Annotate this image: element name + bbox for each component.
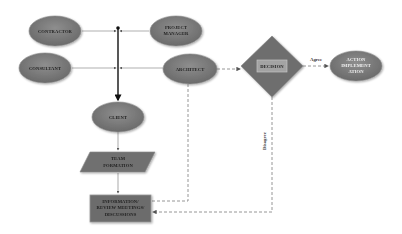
architect-label: ARCHITECT bbox=[176, 67, 205, 72]
team-formation-label-line2: FORMATION bbox=[103, 163, 133, 168]
information-review-label-line3: DISCUSSIONS bbox=[105, 212, 137, 217]
agree-label: Agree bbox=[310, 57, 322, 62]
node-team-formation[interactable]: TEAM FORMATION bbox=[80, 152, 155, 172]
node-information-review[interactable]: INFORMATION/ REVIEW MEETINGS/ DISCUSSION… bbox=[90, 195, 151, 222]
disagree-label: Disagree bbox=[262, 132, 267, 150]
node-decision[interactable]: DECISION bbox=[241, 36, 303, 97]
contractor-label: CONTRACTOR bbox=[38, 29, 73, 34]
action-implementation-label-line3: ATION bbox=[348, 69, 364, 74]
node-architect[interactable]: ARCHITECT bbox=[163, 54, 217, 84]
disagree-connector bbox=[153, 97, 272, 212]
project-manager-label-line1: PROJECT bbox=[165, 25, 187, 30]
dashed-connectors bbox=[152, 66, 328, 212]
node-consultant[interactable]: CONSULTANT bbox=[19, 53, 71, 83]
node-contractor[interactable]: CONTRACTOR bbox=[29, 16, 81, 46]
stakeholder-bus bbox=[116, 26, 120, 100]
action-implementation-label-line2: IMPLEMENT bbox=[341, 63, 371, 68]
information-review-label-line1: INFORMATION/ bbox=[102, 199, 139, 204]
information-review-label-line2: REVIEW MEETINGS/ bbox=[97, 205, 145, 210]
decision-label: DECISION bbox=[260, 64, 284, 69]
node-client[interactable]: CLIENT bbox=[92, 102, 144, 132]
architect-to-review-connector bbox=[152, 84, 188, 201]
action-implementation-label-line1: ACTION bbox=[347, 57, 367, 62]
client-label: CLIENT bbox=[109, 115, 127, 120]
node-project-manager[interactable]: PROJECT MANAGER bbox=[150, 16, 202, 46]
team-formation-label-line1: TEAM bbox=[111, 156, 126, 161]
consultant-label: CONSULTANT bbox=[29, 66, 61, 71]
project-manager-label-line2: MANAGER bbox=[164, 31, 190, 36]
workflow-diagram: Agree Disagree CONTRACTOR PROJECT MANAGE… bbox=[0, 0, 402, 234]
node-action-implementation[interactable]: ACTION IMPLEMENT ATION bbox=[330, 51, 382, 81]
